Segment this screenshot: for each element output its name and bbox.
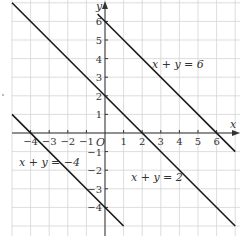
line-label-x-plus-y-6: x + y = 6	[152, 58, 204, 71]
y-axis-arrow-icon	[102, 1, 108, 9]
line-label-x-plus-y-minus-4: x + y = −4	[19, 156, 80, 169]
x-tick-label: −1	[79, 136, 94, 147]
x-tick-label: 3	[158, 136, 164, 147]
grid-lines	[12, 0, 240, 236]
y-tick-label: 1	[96, 109, 102, 120]
x-axis-label: x	[230, 118, 237, 131]
x-tick-label: 4	[176, 136, 182, 147]
x-tick-label: 5	[195, 136, 201, 147]
x-tick-label: 6	[213, 136, 219, 147]
stray-dot	[2, 94, 4, 96]
y-tick-label: −2	[87, 165, 102, 176]
x-tick-label: −2	[60, 136, 75, 147]
line-label-x-plus-y-2: x + y = 2	[131, 171, 183, 184]
y-tick-label: 3	[96, 72, 102, 83]
line-x-y-6	[98, 14, 236, 152]
tick-labels: −4−3−2−1123456−4−3−2−1123456	[23, 16, 220, 213]
coordinate-plane: −4−3−2−1123456−4−3−2−1123456 x y O x + y…	[0, 0, 242, 236]
x-tick-label: 1	[120, 136, 126, 147]
x-tick-label: 2	[139, 136, 145, 147]
y-tick-label: 5	[96, 35, 102, 46]
y-tick-label: −3	[87, 184, 102, 195]
origin-label: O	[96, 136, 105, 149]
y-axis-label: y	[95, 0, 103, 13]
y-tick-label: −4	[87, 202, 102, 213]
y-tick-label: 4	[96, 54, 102, 65]
